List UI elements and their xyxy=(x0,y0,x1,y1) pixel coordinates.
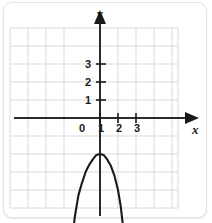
origin-label: 0 xyxy=(76,122,88,134)
y-tick-label-1: 1 xyxy=(82,94,94,106)
y-axis-label: y xyxy=(97,6,103,22)
y-tick-label-2: 2 xyxy=(82,76,94,88)
x-tick-label-2: 2 xyxy=(113,122,125,134)
y-tick-label-3: 3 xyxy=(82,58,94,70)
x-axis-label: x xyxy=(192,122,199,138)
parabola-curve xyxy=(72,154,125,223)
coordinate-plane-chart xyxy=(0,0,212,223)
x-tick-label-3: 3 xyxy=(131,122,143,134)
x-tick-label-1: 1 xyxy=(95,122,107,134)
